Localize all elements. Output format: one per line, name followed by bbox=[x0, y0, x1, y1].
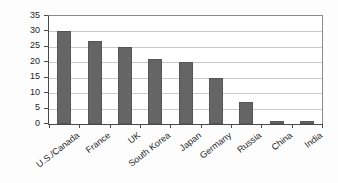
x-tick-mark bbox=[231, 124, 232, 128]
bar bbox=[148, 59, 162, 124]
x-tick-mark bbox=[110, 124, 111, 128]
y-tick-label: 10 bbox=[22, 88, 40, 97]
x-tick-mark bbox=[292, 124, 293, 128]
y-tick-label: 0 bbox=[22, 119, 40, 128]
bar-chart: Dollars ($) 05101520253035 U.S./CanadaFr… bbox=[0, 0, 338, 183]
bar bbox=[57, 31, 71, 124]
bar bbox=[239, 102, 253, 124]
x-tick-mark bbox=[201, 124, 202, 128]
y-axis-title: Dollars ($) bbox=[0, 0, 2, 80]
y-tick-label: 15 bbox=[22, 72, 40, 81]
x-tick-mark bbox=[79, 124, 80, 128]
bar bbox=[300, 121, 314, 124]
x-tick-mark bbox=[170, 124, 171, 128]
y-tick-label: 5 bbox=[22, 103, 40, 112]
gridline bbox=[49, 31, 322, 32]
x-tick-mark bbox=[261, 124, 262, 128]
bar bbox=[209, 78, 223, 124]
y-tick-label: 20 bbox=[22, 57, 40, 66]
x-tick-mark bbox=[140, 124, 141, 128]
bar bbox=[88, 41, 102, 124]
bar bbox=[179, 62, 193, 124]
x-tick-mark bbox=[322, 124, 323, 128]
bar bbox=[118, 47, 132, 124]
x-tick-mark bbox=[49, 124, 50, 128]
plot-area bbox=[48, 15, 323, 125]
y-tick-label: 25 bbox=[22, 41, 40, 50]
y-tick-label: 35 bbox=[22, 11, 40, 20]
y-tick-label: 30 bbox=[22, 26, 40, 35]
bar bbox=[270, 121, 284, 124]
